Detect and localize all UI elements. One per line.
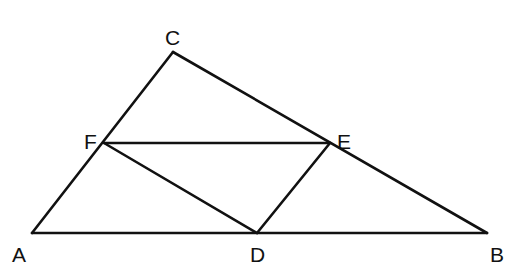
- label-C: C: [165, 26, 180, 49]
- segment-DE: [257, 143, 330, 233]
- triangle-diagram: C F E A D B: [0, 0, 512, 270]
- label-A: A: [12, 243, 26, 266]
- label-F: F: [84, 130, 97, 153]
- label-B: B: [490, 243, 504, 266]
- segment-FD: [104, 143, 257, 233]
- label-E: E: [337, 130, 351, 153]
- label-D: D: [250, 243, 265, 266]
